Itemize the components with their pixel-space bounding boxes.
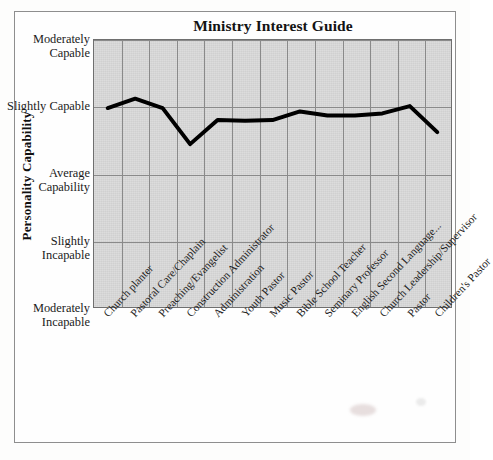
scan-speck [416,398,426,406]
y-axis-tick-labels: Moderately Capable Slightly Capable Aver… [0,39,90,308]
y-tick-label-slightly-capable: Slightly Capable [6,99,90,113]
y-tick-label-average-capability: Average Capability [6,166,90,194]
y-tick-label-moderately-capable: Moderately Capable [6,32,90,60]
y-tick-label-moderately-incapable: Moderately Incapable [6,301,90,329]
chart-title: Ministry Interest Guide [93,17,453,35]
scan-smudge [350,404,376,416]
y-tick-label-slightly-incapable: Slightly Incapable [6,234,90,262]
x-axis-tick-labels: Church planterPastoral Care/ChaplainPrea… [93,308,452,438]
series-polyline [108,99,438,144]
